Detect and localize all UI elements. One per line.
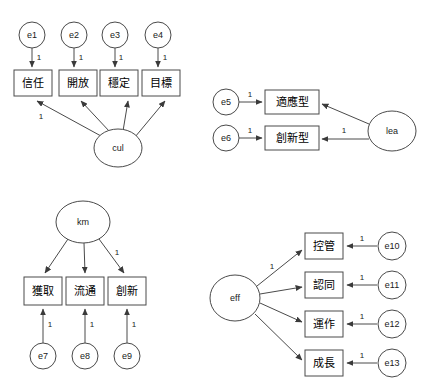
weight-e8: 1 — [90, 320, 95, 329]
weight-e5: 1 — [248, 90, 253, 99]
weight-lea-chuangxinxing: 1 — [342, 126, 347, 135]
indicator-label-rentong: 認同 — [313, 278, 335, 292]
weight-e4: 1 — [163, 53, 168, 62]
weight-e12: 1 — [360, 312, 365, 321]
path-diagram-svg: e1 e2 e3 e4 1 1 1 1 信任 開放 穩定 目標 — [0, 0, 426, 391]
indicator-label-wending: 穩定 — [108, 76, 130, 90]
panel-cul: e1 e2 e3 e4 1 1 1 1 信任 開放 穩定 目標 — [14, 22, 180, 167]
weight-e7: 1 — [48, 320, 53, 329]
edge-cul-to-mubiao — [135, 101, 165, 137]
edge-km-to-chuangxin — [99, 239, 124, 273]
sem-diagram-canvas: e1 e2 e3 e4 1 1 1 1 信任 開放 穩定 目標 — [0, 0, 426, 391]
indicator-label-kaifang: 開放 — [67, 76, 89, 90]
error-label-e1: e1 — [27, 30, 37, 40]
edge-cul-to-wending — [123, 101, 128, 131]
error-label-e12: e12 — [384, 319, 399, 329]
error-label-e8: e8 — [80, 351, 90, 361]
edge-eff-to-rentong — [260, 287, 302, 294]
edge-eff-to-yunzuo — [260, 303, 302, 322]
panel-eff: eff 1 控管 認同 運作 成長 1 1 1 1 e10 e1 — [210, 232, 406, 377]
indicator-label-chuangxin: 創新 — [116, 284, 138, 298]
weight-e10: 1 — [360, 234, 365, 243]
edge-km-to-liutong — [84, 243, 85, 273]
weight-e6: 1 — [248, 126, 253, 135]
panel-lea: e5 e6 1 1 適應型 創新型 1 lea — [213, 89, 416, 151]
error-label-e13: e13 — [384, 358, 399, 368]
latent-label-cul: cul — [112, 143, 124, 153]
weight-e11: 1 — [360, 273, 365, 282]
indicator-label-xinren: 信任 — [22, 77, 44, 90]
error-label-e2: e2 — [69, 30, 79, 40]
error-label-e5: e5 — [221, 97, 231, 107]
indicator-label-chuangxinxing: 創新型 — [276, 131, 309, 145]
indicator-label-kongguan: 控管 — [313, 239, 335, 253]
error-label-e10: e10 — [384, 241, 399, 251]
error-label-e4: e4 — [153, 30, 163, 40]
indicator-label-mubiao: 目標 — [150, 76, 172, 90]
latent-label-eff: eff — [230, 293, 240, 303]
indicator-label-shiyingxing: 適應型 — [276, 95, 309, 109]
weight-e13: 1 — [360, 351, 365, 360]
indicator-label-liutong: 流通 — [74, 284, 96, 298]
panel-km: km 1 獲取 流通 創新 1 1 1 e7 e8 e9 — [24, 201, 146, 369]
indicator-label-chengzhang: 成長 — [313, 357, 335, 370]
error-label-e11: e11 — [385, 280, 399, 290]
weight-km-chuangxin: 1 — [115, 248, 120, 257]
edge-lea-to-shiyingxing — [322, 104, 369, 124]
error-label-e3: e3 — [110, 30, 120, 40]
weight-eff-kongguan: 1 — [270, 262, 275, 271]
edge-eff-to-kongguan — [257, 250, 302, 286]
weight-e1: 1 — [37, 53, 42, 62]
indicator-label-yunzuo: 運作 — [313, 318, 335, 331]
weight-e2: 1 — [79, 53, 84, 62]
weight-e9: 1 — [132, 320, 137, 329]
weight-cul-xinren: 1 — [39, 112, 44, 121]
edge-cul-to-xinren — [37, 101, 101, 136]
latent-label-km: km — [77, 217, 89, 227]
indicator-label-huoqu: 獲取 — [32, 285, 54, 298]
error-label-e6: e6 — [221, 133, 231, 143]
weight-e3: 1 — [119, 53, 124, 62]
error-label-e7: e7 — [38, 351, 48, 361]
error-label-e9: e9 — [122, 351, 132, 361]
edge-eff-to-chengzhang — [255, 314, 302, 360]
edge-km-to-huoqu — [45, 239, 68, 273]
latent-label-lea: lea — [386, 126, 398, 136]
